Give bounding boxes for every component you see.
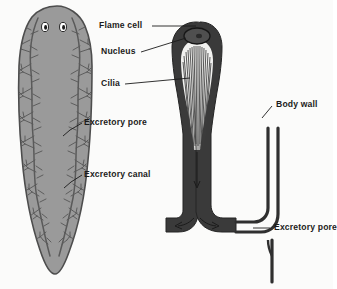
label-excretory-pore-left: Excretory pore — [84, 118, 147, 127]
flame-cell-unit — [166, 22, 236, 232]
leader-body-wall — [262, 106, 272, 118]
label-excretory-pore-right: Excretory pore — [274, 223, 337, 232]
nucleus-oval — [184, 28, 210, 44]
label-excretory-canal: Excretory canal — [84, 170, 151, 179]
body-wall — [236, 128, 278, 282]
label-flame-cell: Flame cell — [99, 21, 142, 30]
eyespot-right — [60, 22, 67, 31]
label-cilia: Cilia — [101, 79, 120, 88]
eyespot-left — [42, 22, 49, 31]
label-nucleus: Nucleus — [101, 47, 136, 56]
planarian-body — [17, 6, 93, 274]
label-body-wall: Body wall — [276, 100, 318, 109]
